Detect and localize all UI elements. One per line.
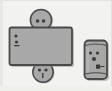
- head-eye-right-icon: [42, 19, 45, 22]
- cylinder-nose-icon: [92, 57, 96, 61]
- canvas-edge-shade-bottom: [0, 86, 112, 91]
- cylinder-character: [85, 41, 110, 82]
- figure-sketch-illustration: [0, 0, 112, 91]
- foot-eye-right-icon: [44, 68, 47, 71]
- cylinder-eye-left-icon: [89, 51, 92, 54]
- cylinder-badge-icon: [96, 65, 100, 69]
- head-eye-left-icon: [36, 19, 39, 22]
- canvas-edge-shade-left: [0, 0, 3, 91]
- body-rectangle: [10, 28, 75, 68]
- foot-eye-left-icon: [38, 68, 41, 71]
- sketch-canvas: [0, 0, 112, 91]
- body-mark-upper-dot-icon: [14, 34, 17, 37]
- body-fill: [10, 28, 73, 66]
- cylinder-eye-right-icon: [96, 51, 99, 54]
- body-mark-lower-dot-icon: [15, 40, 18, 43]
